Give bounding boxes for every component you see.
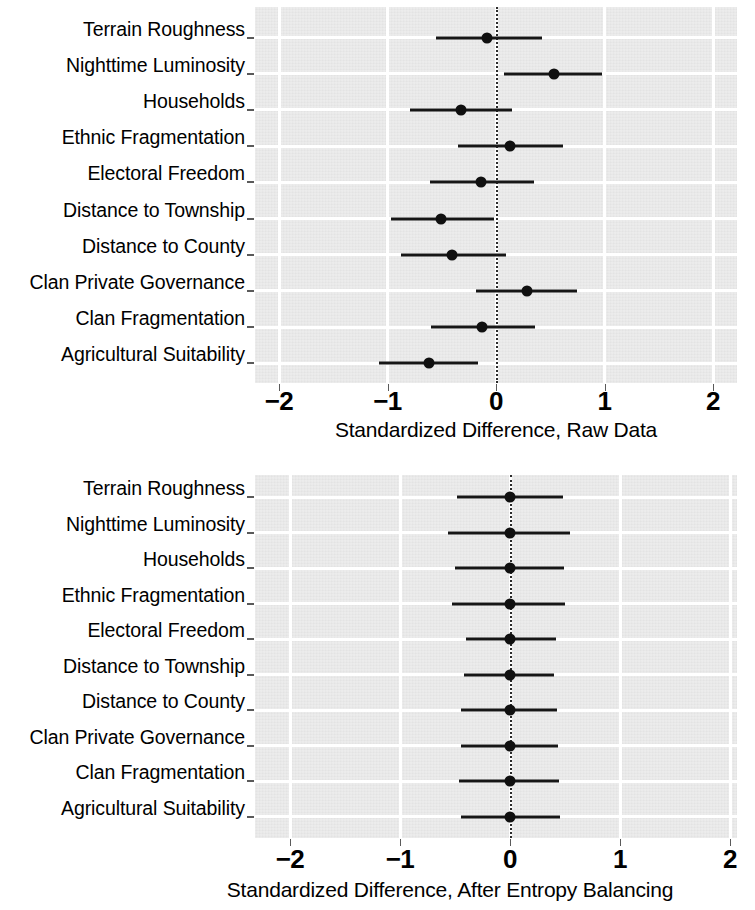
point-estimate-dot (423, 358, 434, 369)
x-axis-tick-label: −1 (386, 844, 415, 875)
point-estimate-dot (435, 213, 446, 224)
y-axis-tick (247, 496, 254, 498)
covariate-label: Clan Private Governance (0, 271, 245, 294)
point-estimate-dot (505, 634, 516, 645)
point-estimate-dot (505, 563, 516, 574)
gridline-vertical (619, 475, 622, 838)
x-axis-tick-label: 1 (598, 386, 612, 417)
covariate-label: Agricultural Suitability (0, 797, 245, 820)
point-estimate-dot (505, 705, 516, 716)
point-estimate-dot (522, 285, 533, 296)
covariate-label: Clan Fragmentation (0, 307, 245, 330)
y-axis-tick (247, 73, 254, 75)
y-axis-tick (247, 816, 254, 818)
panel-entropy-balanced: Terrain RoughnessNighttime LuminosityHou… (0, 455, 755, 910)
point-estimate-dot (456, 104, 467, 115)
covariate-label: Distance to County (0, 690, 245, 713)
x-axis-tick-label: 0 (489, 386, 503, 417)
x-axis-tick-label: 0 (503, 844, 517, 875)
covariate-label: Clan Private Governance (0, 726, 245, 749)
covariate-label: Nighttime Luminosity (0, 54, 245, 77)
panel-raw-data: Terrain RoughnessNighttime LuminosityHou… (0, 0, 755, 455)
y-axis-tick (247, 109, 254, 111)
point-estimate-dot (548, 68, 559, 79)
covariate-label: Ethnic Fragmentation (0, 126, 245, 149)
covariate-label: Ethnic Fragmentation (0, 584, 245, 607)
x-axis-title-entropy-balanced: Standardized Difference, After Entropy B… (150, 878, 750, 902)
point-estimate-dot (505, 527, 516, 538)
gridline-vertical (729, 475, 732, 838)
covariate-label: Terrain Roughness (0, 18, 245, 41)
covariate-label: Distance to County (0, 235, 245, 258)
x-axis-title-raw-data: Standardized Difference, Raw Data (255, 418, 737, 442)
plot-area-raw-data (255, 7, 737, 383)
y-axis-tick (247, 567, 254, 569)
covariate-label: Clan Fragmentation (0, 761, 245, 784)
x-axis-tick-label: 2 (706, 386, 720, 417)
y-axis-tick (247, 254, 254, 256)
point-estimate-dot (505, 141, 516, 152)
y-axis-tick (247, 326, 254, 328)
gridline-vertical (289, 475, 292, 838)
covariate-label: Electoral Freedom (0, 162, 245, 185)
y-axis-tick (247, 532, 254, 534)
covariate-label: Terrain Roughness (0, 477, 245, 500)
point-estimate-dot (505, 598, 516, 609)
point-estimate-dot (505, 492, 516, 503)
point-estimate-dot (505, 811, 516, 822)
x-axis-tick-label: −1 (373, 386, 402, 417)
point-estimate-dot (446, 249, 457, 260)
y-axis-tick (247, 674, 254, 676)
x-axis-tick-label: −2 (276, 844, 305, 875)
y-axis-tick (247, 638, 254, 640)
plot-area-entropy-balanced (255, 475, 737, 838)
y-axis-tick (247, 218, 254, 220)
covariate-label: Electoral Freedom (0, 619, 245, 642)
y-axis-tick (247, 181, 254, 183)
covariate-label: Distance to Township (0, 199, 245, 222)
x-axis-tick-label: 2 (723, 844, 737, 875)
y-axis-tick (247, 709, 254, 711)
covariate-label: Households (0, 548, 245, 571)
y-axis-tick (247, 37, 254, 39)
covariate-label: Agricultural Suitability (0, 343, 245, 366)
y-axis-tick (247, 745, 254, 747)
point-estimate-dot (505, 776, 516, 787)
y-axis-tick (247, 290, 254, 292)
point-estimate-dot (482, 32, 493, 43)
covariate-label: Distance to Township (0, 655, 245, 678)
point-estimate-dot (505, 740, 516, 751)
point-estimate-dot (505, 669, 516, 680)
covariate-label: Nighttime Luminosity (0, 513, 245, 536)
point-estimate-dot (476, 322, 487, 333)
y-axis-tick (247, 780, 254, 782)
gridline-vertical (399, 475, 402, 838)
x-axis-tick-label: −2 (265, 386, 294, 417)
y-axis-tick (247, 362, 254, 364)
figure-root: Terrain RoughnessNighttime LuminosityHou… (0, 0, 755, 910)
covariate-label: Households (0, 90, 245, 113)
y-axis-tick (247, 603, 254, 605)
point-estimate-dot (475, 177, 486, 188)
x-axis-tick-label: 1 (613, 844, 627, 875)
y-axis-tick (247, 145, 254, 147)
